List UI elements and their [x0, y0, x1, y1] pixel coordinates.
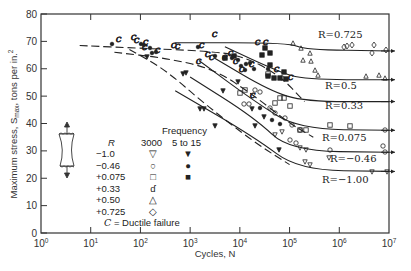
marker-open-circle	[294, 141, 298, 145]
y-axis: 01020304050607080	[26, 9, 47, 239]
specimen-icon	[59, 122, 74, 178]
svg-text:Maximum stress, Smax, tons per: Maximum stress, Smax, tons per in.2	[7, 49, 20, 198]
marker-open-square	[288, 104, 292, 108]
legend-symbol-low-freq: ▼	[183, 148, 192, 159]
marker-open-triangle-down	[273, 133, 277, 137]
ductile-failure-c: C	[199, 42, 205, 50]
y-tick-label: 30	[26, 145, 38, 156]
marker-open-diamond	[372, 42, 376, 48]
x-tick-label: 107	[382, 237, 397, 249]
marker-filled-triangle-down	[262, 115, 266, 119]
legend: RFrequency30005 to 15−1.0▽▼−0.46○●+0.075…	[96, 125, 207, 228]
x-tick-label: 105	[282, 237, 297, 249]
y-axis-title: Maximum stress, Smax, tons per in.2	[7, 49, 20, 198]
x-axis-title: Cycles, N	[195, 248, 236, 259]
marker-filled-triangle-down	[213, 124, 217, 128]
ductile-failure-c: C	[196, 58, 202, 66]
ductile-failure-c: C	[155, 47, 161, 55]
y-tick-label: 10	[26, 200, 38, 211]
marker-open-triangle-up	[316, 73, 320, 77]
marker-filled-triangle-down	[221, 89, 225, 93]
r-ratio-label: R=0.33	[325, 100, 363, 111]
marker-open-triangle-down	[303, 160, 307, 164]
legend-row-r-value: +0.725	[96, 206, 125, 217]
legend-row-r-value: −1.0	[96, 148, 115, 159]
curve-r-0-725	[175, 43, 389, 51]
r-labels: R=0.725R=0.5R=0.33R=0.075R=−0.46R=−1.00	[318, 29, 377, 185]
marker-filled-circle	[258, 106, 262, 110]
r-ratio-label: R=−1.00	[322, 174, 369, 185]
marker-filled-triangle-down	[181, 72, 185, 76]
ductile-failure-c: C	[142, 44, 148, 52]
marker-filled-circle	[150, 51, 154, 55]
ductile-failure-c: C	[134, 37, 140, 45]
ductile-failure-c: C	[116, 36, 122, 44]
ductile-failure-c: C	[228, 50, 234, 58]
x-tick-label: 102	[133, 237, 148, 249]
legend-symbol-3000: ɗ	[150, 183, 156, 194]
marker-open-diamond	[350, 42, 354, 48]
ductile-failure-c: C	[209, 54, 215, 62]
marker-filled-triangle-down	[250, 107, 254, 111]
marker-filled-square	[268, 51, 272, 55]
y-tick-label: 60	[26, 63, 38, 74]
legend-symbol-3000: ○	[150, 160, 156, 171]
y-tick-label: 40	[26, 118, 38, 129]
marker-filled-circle	[266, 67, 270, 71]
legend-header-frequency: Frequency	[162, 125, 207, 136]
marker-open-triangle-up	[377, 73, 381, 77]
marker-filled-circle	[244, 62, 248, 66]
legend-symbol-3000: ◇	[149, 206, 157, 217]
marker-filled-triangle-down	[253, 124, 257, 128]
x-tick-label: 100	[34, 237, 49, 249]
marker-filled-square	[272, 76, 276, 80]
marker-filled-square	[282, 70, 286, 74]
ductile-failure-c: C	[171, 42, 177, 50]
marker-open-triangle-up	[309, 59, 313, 63]
marker-filled-circle	[110, 42, 114, 46]
legend-col-3000: 3000	[141, 137, 162, 148]
marker-filled-square	[268, 63, 272, 67]
marker-open-triangle-down	[280, 130, 284, 134]
ductile-failure-c: C	[249, 61, 255, 69]
curve-r-0-075	[199, 61, 389, 131]
ductile-failure-c: C	[212, 31, 218, 39]
marker-open-circle	[247, 102, 251, 106]
legend-symbol-3000: □	[150, 171, 156, 182]
marker-open-square	[273, 101, 277, 105]
marker-filled-circle	[270, 118, 274, 122]
marker-filled-triangle-down	[202, 107, 206, 111]
ductile-failure-c: C	[263, 39, 269, 47]
legend-row-r-value: −0.46	[96, 160, 120, 171]
ductile-failure-c: C	[250, 92, 256, 100]
sn-fatigue-chart: 01020304050607080 1001011021031041051061…	[0, 0, 411, 271]
marker-open-triangle-down	[370, 170, 374, 174]
marker-open-triangle-up	[313, 68, 317, 72]
legend-symbol-low-freq: ■	[185, 171, 191, 182]
marker-open-triangle-up	[301, 58, 305, 62]
legend-symbol-3000: △	[149, 194, 157, 205]
ductile-failure-c: C	[255, 39, 261, 47]
legend-note-ductile: C = Ductile failure	[104, 217, 180, 228]
x-tick-label: 101	[83, 237, 98, 249]
ductile-failure-c: C	[233, 58, 239, 66]
y-tick-label: 80	[26, 9, 38, 20]
y-tick-label: 20	[26, 173, 38, 184]
marker-open-circle	[242, 102, 246, 106]
y-tick-label: 70	[26, 36, 38, 47]
legend-col-low-freq: 5 to 15	[172, 137, 201, 148]
marker-filled-circle	[278, 122, 282, 126]
marker-filled-square	[260, 53, 264, 57]
y-tick-label: 50	[26, 91, 38, 102]
marker-open-circle	[258, 90, 262, 94]
x-tick-label: 106	[332, 237, 347, 249]
marker-open-triangle-up	[364, 74, 368, 78]
legend-row-r-value: +0.33	[96, 183, 120, 194]
marker-open-triangle-up	[308, 51, 312, 55]
marker-filled-circle	[148, 46, 152, 50]
legend-symbol-low-freq: ●	[185, 160, 191, 171]
ductile-failure-c: C	[239, 66, 245, 74]
marker-open-circle	[381, 144, 385, 148]
marker-open-square	[328, 123, 332, 127]
marker-open-circle	[288, 138, 292, 142]
